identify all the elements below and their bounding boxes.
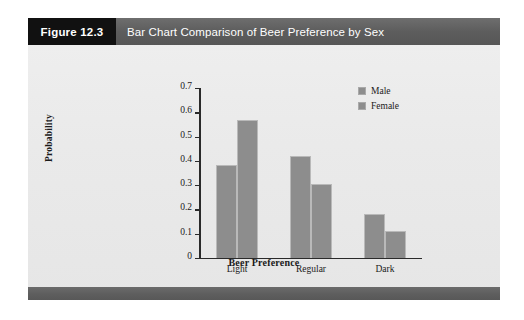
figure-number-label: Figure 12.3	[28, 18, 116, 45]
legend-item-female: Female	[358, 101, 399, 111]
y-axis-tick-label: 0	[187, 251, 192, 261]
y-axis-label: Probability	[44, 93, 54, 183]
y-axis-tick-label: 0.5	[180, 130, 192, 140]
bar-female-regular	[311, 184, 332, 258]
legend-swatch-icon	[358, 102, 366, 110]
y-axis-tick-label: 0.4	[180, 154, 192, 164]
x-axis-category-label: Dark	[376, 264, 395, 274]
y-axis-tick-label: 0.7	[180, 81, 192, 91]
x-axis-category-label: Regular	[296, 264, 326, 274]
y-axis-tick-mark	[195, 209, 200, 210]
y-axis-tick-mark	[195, 88, 200, 89]
y-axis-tick-mark	[195, 137, 200, 138]
figure-panel: Figure 12.3 Bar Chart Comparison of Beer…	[28, 18, 500, 300]
y-axis-tick-label: 0.3	[180, 178, 192, 188]
chart-area: Probability Beer Preference 00.10.20.30.…	[28, 45, 500, 287]
figure-footer-band	[28, 287, 500, 300]
bar-female-light	[237, 120, 258, 258]
x-axis-category-label: Light	[227, 264, 248, 274]
figure-title: Bar Chart Comparison of Beer Preference …	[116, 18, 500, 45]
figure-header: Figure 12.3 Bar Chart Comparison of Beer…	[28, 18, 500, 45]
y-axis-tick-mark	[195, 258, 200, 259]
bar-male-dark	[364, 214, 385, 258]
legend-item-male: Male	[358, 86, 399, 96]
y-axis-tick-mark	[195, 234, 200, 235]
bar-female-dark	[385, 231, 406, 258]
y-axis-tick-label: 0.6	[180, 105, 192, 115]
bar-male-light	[216, 165, 237, 259]
legend-swatch-icon	[358, 87, 366, 95]
y-axis-tick-mark	[195, 161, 200, 162]
bar-male-regular	[290, 156, 311, 258]
legend-label-female: Female	[371, 101, 399, 111]
legend-label-male: Male	[371, 86, 391, 96]
y-axis-tick-mark	[195, 185, 200, 186]
chart-legend: Male Female	[358, 86, 399, 116]
y-axis-tick-label: 0.1	[180, 227, 192, 237]
y-axis-tick-mark	[195, 112, 200, 113]
y-axis-tick-label: 0.2	[180, 202, 192, 212]
